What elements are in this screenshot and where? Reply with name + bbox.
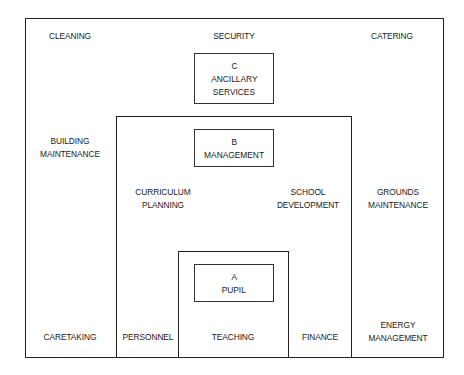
zone-b-label-box: B MANAGEMENT [194, 129, 274, 167]
zone-a-key: A [231, 270, 237, 283]
curriculum-line-1: CURRICULUM [128, 185, 198, 198]
energy-line-1: ENERGY [363, 318, 433, 331]
zone-a-label-box: A PUPIL [194, 264, 274, 302]
school-line-2: DEVELOPMENT [273, 198, 343, 211]
label-cleaning: CLEANING [44, 29, 97, 42]
zone-a-title: PUPIL [222, 283, 246, 296]
building-line-2: MAINTENANCE [35, 147, 105, 160]
zone-c-key: C [231, 59, 237, 72]
label-school-development: SCHOOL DEVELOPMENT [273, 185, 343, 211]
label-caretaking: CARETAKING [39, 330, 101, 343]
label-curriculum-planning: CURRICULUM PLANNING [128, 185, 198, 211]
curriculum-line-2: PLANNING [128, 198, 198, 211]
label-security: SECURITY [208, 29, 261, 42]
building-line-1: BUILDING [35, 134, 105, 147]
energy-line-2: MANAGEMENT [363, 331, 433, 344]
zone-c-label-box: C ANCILLARY SERVICES [194, 53, 274, 104]
label-energy-management: ENERGY MANAGEMENT [363, 318, 433, 344]
label-teaching: TEACHING [202, 330, 264, 343]
label-grounds-maintenance: GROUNDS MAINTENANCE [363, 185, 433, 211]
zone-c-title-2: SERVICES [213, 85, 255, 98]
school-line-1: SCHOOL [273, 185, 343, 198]
label-personnel: PERSONNEL [122, 330, 175, 343]
label-catering: CATERING [366, 29, 419, 42]
label-building-maintenance: BUILDING MAINTENANCE [35, 134, 105, 160]
label-finance: FINANCE [294, 330, 347, 343]
grounds-line-1: GROUNDS [363, 185, 433, 198]
grounds-line-2: MAINTENANCE [363, 198, 433, 211]
zone-b-title: MANAGEMENT [204, 148, 264, 161]
zone-b-key: B [231, 135, 237, 148]
zone-c-title-1: ANCILLARY [211, 72, 257, 85]
